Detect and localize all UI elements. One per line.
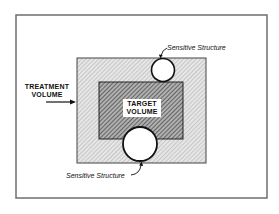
treatment-volume-label-line1: TREATMENT: [22, 83, 72, 90]
target-volume-label-line2: VOLUME: [125, 108, 159, 116]
sensitive-structure-bottom-circle: [123, 127, 157, 161]
sensitive-structure-top-label: Sensitive Structure: [167, 44, 226, 51]
target-volume-label-line1: TARGET: [125, 100, 159, 108]
sensitive-structure-top-circle: [152, 59, 175, 82]
target-volume-label: TARGET VOLUME: [123, 99, 161, 117]
sensitive-structure-bottom-label: Sensitive Structure: [66, 172, 125, 179]
treatment-volume-label-line2: VOLUME: [22, 91, 72, 98]
radiation-treatment-diagram: TREATMENT VOLUME TARGET VOLUME Sensitive…: [0, 0, 279, 214]
treatment-volume-label: TREATMENT VOLUME: [22, 83, 72, 98]
